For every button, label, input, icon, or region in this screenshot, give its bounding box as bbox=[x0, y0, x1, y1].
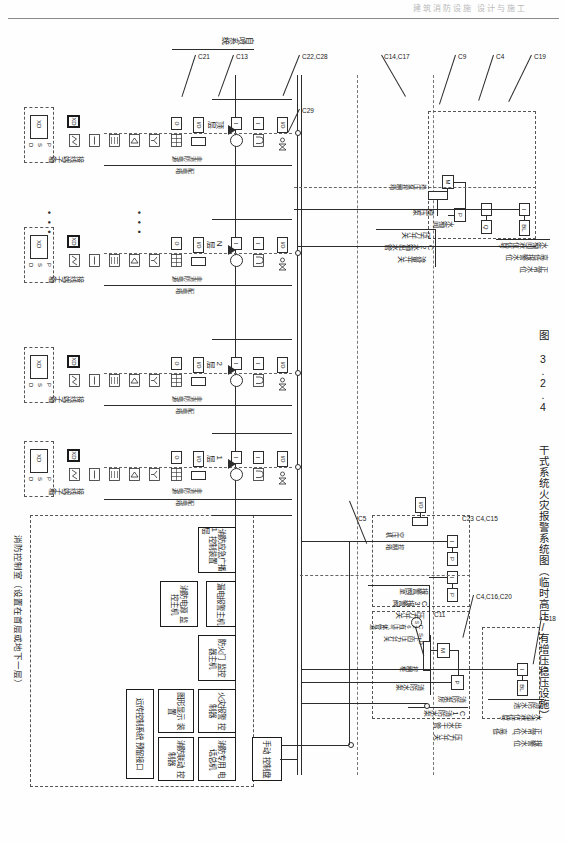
tank-level-bl-symbol: BL bbox=[519, 220, 530, 236]
pump-room-name-label: 消防泵房 bbox=[438, 695, 466, 703]
unit-leakage-alarm-label: 漏电报警主机 bbox=[217, 583, 226, 625]
compressor-label: 空压机 bbox=[386, 531, 404, 538]
floor-4-xd-node[interactable]: XD bbox=[67, 449, 80, 462]
floor-4-grid-module-icon bbox=[171, 468, 182, 481]
speaker-icon-top bbox=[228, 125, 236, 135]
floor-2-loop-node[interactable] bbox=[295, 250, 301, 256]
tank-level-link bbox=[524, 216, 525, 220]
floor-1-grid-module-icon bbox=[171, 134, 182, 147]
floor-2-smoke-detector-icon bbox=[89, 254, 100, 267]
unit-leakage-alarm[interactable]: 漏电报警主机 bbox=[206, 581, 236, 627]
floor-4-sound-light-alarm-icon bbox=[129, 468, 140, 481]
alarm-valve-link-2 bbox=[452, 584, 453, 588]
floor-3-xd-port-s: S bbox=[36, 383, 43, 387]
floor-1-phone-jack-icon bbox=[109, 134, 120, 147]
unit-graphic-display-label: 图形显示 装置 bbox=[167, 691, 185, 731]
floor-4-loop-node[interactable] bbox=[295, 464, 301, 470]
floor-1-nonfire-power-label-2: 配电箱 bbox=[176, 167, 194, 174]
flow-label-rule bbox=[376, 229, 436, 230]
floor-1-io-symbol: I/O bbox=[277, 117, 288, 133]
floor-3-phone-jack-icon bbox=[109, 374, 120, 387]
floor-3-valve-icon bbox=[277, 377, 288, 391]
floor-4-power-box bbox=[191, 471, 206, 480]
riser-left-1 bbox=[294, 209, 494, 210]
unit-manual-panel[interactable]: 手动 控制盘 bbox=[252, 737, 282, 781]
floor-2-xd-box-label: XD bbox=[35, 240, 42, 248]
unit-graphic-display[interactable]: 图形显示 装置 bbox=[158, 689, 194, 733]
floor-1-bell-icon bbox=[253, 134, 264, 147]
floor-3-bell-icon bbox=[253, 374, 264, 387]
floor-2-xd-node[interactable]: XD bbox=[67, 235, 80, 248]
riser-left-dash bbox=[294, 187, 536, 188]
unit-broadcast-label: 消防应急广播 控制装置 bbox=[208, 529, 226, 571]
floor-2-nonfire-power-label-1: 非消防电源 bbox=[172, 275, 202, 282]
floor-3-power-io-symbol: I/O bbox=[193, 357, 204, 373]
tank-level-alarm-label: 高低报警水位 bbox=[506, 253, 548, 261]
floor-3-nonfire-power-label-2: 配电箱 bbox=[176, 407, 194, 414]
riser-right-1 bbox=[301, 541, 429, 542]
leader-c13 bbox=[218, 55, 234, 97]
floor-1-heat-detector-icon bbox=[69, 134, 80, 147]
unit-linkage-ctrl[interactable]: 消防联动 控制器 bbox=[158, 737, 194, 781]
floor-3-nonfire-power-label-1: 非消防电源 bbox=[172, 395, 202, 402]
unit-power-monitor[interactable]: 消防电源 监控主机 bbox=[160, 581, 198, 627]
compressor-link bbox=[420, 513, 421, 517]
floor-1-power-box bbox=[191, 137, 206, 146]
floor-2-manual-call-point-icon bbox=[149, 254, 160, 267]
code-c4-c16-c20: C4,C16,C20 bbox=[476, 593, 512, 600]
floor-2-xd-port-s: S bbox=[36, 263, 43, 267]
unit-manual-panel-label: 手动 控制盘 bbox=[263, 740, 272, 777]
floor-2-power-io-symbol: I/O bbox=[193, 237, 204, 253]
compressor-cabinet-box bbox=[412, 517, 428, 526]
alarm-valve-code-label: C3报警阀 bbox=[393, 599, 428, 607]
floor-3-xd-node[interactable]: XD bbox=[67, 355, 80, 368]
floor-2-module-o-symbol: O bbox=[171, 237, 182, 250]
unit-fire-door[interactable]: 防火门 监控器主机 bbox=[198, 635, 236, 681]
floor-1-power-io-symbol: I/O bbox=[193, 117, 204, 133]
unit-phone-host[interactable]: 消防专用 电话总机 bbox=[198, 737, 236, 781]
floor-1-riser bbox=[104, 165, 292, 166]
manual-panel-feed bbox=[282, 745, 350, 746]
bus-loop-main bbox=[301, 75, 302, 775]
pump-room-p-drop bbox=[431, 682, 451, 683]
floor-1-xd-port-d: D bbox=[27, 143, 34, 147]
floor-1-loop-node[interactable] bbox=[295, 130, 301, 136]
floor-1-xd-node[interactable]: XD bbox=[67, 115, 80, 128]
pump-cab-bus bbox=[437, 200, 438, 216]
pump-room-p-symbol: P bbox=[451, 675, 464, 690]
leader-c4 bbox=[478, 55, 494, 101]
linkage-to-loop bbox=[280, 759, 298, 760]
pump-top-link bbox=[465, 182, 466, 208]
code-c22-c28: C22,C28 bbox=[302, 53, 328, 60]
floor-3-module-o-symbol: O bbox=[171, 357, 182, 370]
compressor-io-symbol: I/O bbox=[415, 497, 426, 513]
leader-c9 bbox=[439, 55, 456, 105]
unit-phone-host-label: 消防专用 电话总机 bbox=[208, 739, 226, 779]
floor-2-io-symbol: I/O bbox=[277, 237, 288, 253]
compressor-cab-label: 控制箱 bbox=[386, 543, 404, 550]
leader-c14 bbox=[381, 55, 406, 97]
riser-right-4 bbox=[301, 703, 427, 704]
fire-tank-alarm-label: 报警水位 bbox=[514, 739, 542, 747]
floor-3-bell-i-symbol: I bbox=[253, 357, 264, 370]
floor-label-n: N层 bbox=[207, 239, 224, 248]
floor-1-nonfire-power-label-1: 非消防电源 bbox=[172, 155, 202, 162]
alarm-valve-to-panel-bus bbox=[349, 541, 350, 745]
unit-remote-system[interactable]: 远传控制系统 预留接口 bbox=[126, 689, 154, 779]
speaker-icon-2 bbox=[228, 365, 236, 375]
floor-4-xd-box-label: XD bbox=[35, 454, 42, 462]
floor-4-heat-detector-icon bbox=[69, 468, 80, 481]
floor-4-nonfire-power-label-1: 非消防电源 bbox=[172, 487, 202, 494]
tank-level-i-symbol: I bbox=[519, 203, 530, 216]
floor-3-loop-node[interactable] bbox=[295, 370, 301, 376]
floor-2-grid-module-icon bbox=[171, 254, 182, 267]
pump-motor-cab-link bbox=[447, 189, 448, 191]
floor-1-valve-icon bbox=[277, 137, 288, 151]
floor-1-xd-box-label: XD bbox=[35, 120, 42, 128]
fire-tank-normal-label: 正常水位、高低 bbox=[493, 727, 542, 735]
water-tank-room-label: 水箱间 bbox=[433, 220, 454, 228]
speaker-icon-n bbox=[228, 245, 236, 255]
unit-fire-alarm-ctrl[interactable]: 火灾报警 控制器 bbox=[198, 689, 236, 733]
unit-linkage-ctrl-label: 消防联动 控制器 bbox=[167, 739, 185, 779]
flow-switch-label: 流量开关 bbox=[398, 255, 426, 263]
